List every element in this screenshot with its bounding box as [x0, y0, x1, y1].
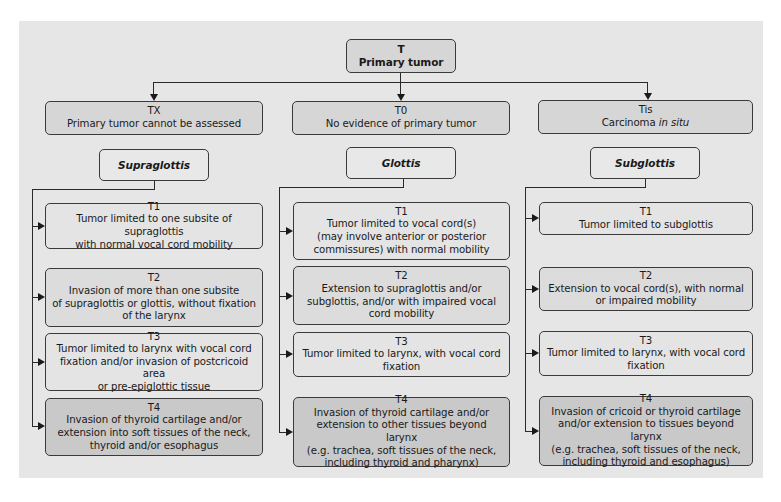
stage-line: (may involve anterior or posterior: [317, 231, 486, 244]
supraglottis-horizontal-line: [32, 189, 155, 190]
glottis-bus-line: [279, 187, 280, 433]
subglottis-t4-branch: [525, 431, 532, 432]
stage-line: (e.g. trachea, soft tissues of the neck,: [307, 445, 496, 458]
arrow-subglottis-t3-icon: [532, 349, 539, 357]
root-stem-line: [400, 73, 401, 94]
supraglottis-t3-box: T3 Tumor limited to larynx with vocal co…: [45, 333, 263, 391]
arrow-glottis-t2-icon: [286, 292, 293, 300]
subglottis-label: Subglottis: [615, 157, 675, 170]
glottis-t2-branch: [279, 296, 286, 297]
stage-line: of the larynx: [122, 310, 186, 323]
stage-code: T4: [395, 394, 408, 407]
stage-line: Extension to vocal cord(s), with normal: [548, 283, 744, 296]
stage-code: T3: [148, 331, 161, 344]
root-code: T: [397, 43, 404, 56]
arrow-glottis-t4-icon: [286, 428, 293, 436]
stage-code: T1: [640, 206, 653, 219]
stage-line: Tumor limited to larynx, with vocal cord: [302, 348, 500, 361]
tx-code: TX: [147, 105, 160, 118]
tx-drop-line: [153, 82, 154, 94]
stage-line: Tumor limited to one subsite of supraglo…: [52, 213, 256, 238]
subglottis-t3-box: T3 Tumor limited to larynx, with vocal c…: [539, 331, 753, 376]
stage-line: fixation: [627, 360, 664, 373]
stage-line: Tumor limited to subglottis: [579, 219, 713, 232]
supraglottis-label: Supraglottis: [118, 159, 190, 172]
supraglottis-t1-box: T1 Tumor limited to one subsite of supra…: [45, 203, 263, 249]
stage-line: including thyroid and esophagus): [562, 456, 729, 469]
arrow-subglottis-t4-icon: [532, 427, 539, 435]
tis-label-italic: in situ: [659, 117, 689, 128]
node-tis: Tis Carcinoma in situ: [538, 100, 753, 134]
subglottis-t2-branch: [525, 289, 532, 290]
arrow-glottis-t1-icon: [286, 227, 293, 235]
stage-line: (e.g. trachea, soft tissues of the neck,: [551, 444, 740, 457]
root-label: Primary tumor: [359, 56, 444, 69]
t0-code: T0: [395, 105, 408, 118]
stage-line: and/or extension to tissues beyond laryn…: [546, 418, 746, 443]
arrow-subglottis-t2-icon: [532, 285, 539, 293]
tis-label: Carcinoma in situ: [602, 117, 689, 130]
glottis-t3-branch: [279, 354, 286, 355]
stage-line: Invasion of cricoid or thyroid cartilage: [551, 406, 740, 419]
glottis-horizontal-line: [279, 187, 404, 188]
stage-line: Extension to supraglottis and/or: [321, 283, 481, 296]
supraglottis-t2-box: T2 Invasion of more than one subsite of …: [45, 268, 263, 327]
stage-code: T3: [640, 335, 653, 348]
region-header-glottis: Glottis: [346, 147, 456, 179]
root-node-primary-tumor: T Primary tumor: [346, 39, 456, 73]
stage-line: or pre-epiglottic tissue: [98, 381, 211, 394]
stage-line: thyroid and/or esophagus: [90, 440, 218, 453]
stage-line: fixation: [383, 361, 420, 374]
stage-line: cord mobility: [369, 308, 434, 321]
glottis-t1-box: T1 Tumor limited to vocal cord(s) (may i…: [293, 202, 510, 260]
region-header-supraglottis: Supraglottis: [99, 149, 209, 181]
glottis-label: Glottis: [382, 157, 421, 170]
subglottis-bus-line: [525, 187, 526, 432]
stage-code: T2: [640, 270, 653, 283]
arrow-to-tx-icon: [150, 94, 158, 101]
subglottis-t1-branch: [525, 218, 532, 219]
stage-line: extension to other tissues beyond larynx: [300, 419, 503, 444]
arrow-supraglottis-t2-icon: [38, 293, 45, 301]
arrow-subglottis-t1-icon: [532, 214, 539, 222]
glottis-t4-box: T4 Invasion of thyroid cartilage and/or …: [293, 397, 510, 467]
region-header-subglottis: Subglottis: [590, 147, 700, 179]
stage-line: Tumor limited to vocal cord(s): [327, 218, 476, 231]
arrow-supraglottis-t3-icon: [38, 358, 45, 366]
stage-line: subglottis, and/or with impaired vocal: [307, 296, 496, 309]
stage-line: Invasion of thyroid cartilage and/or: [314, 407, 489, 420]
stage-line: fixation and/or invasion of postcricoid …: [52, 356, 256, 381]
stage-code: T3: [395, 336, 408, 349]
stage-line: Tumor limited to larynx with vocal cord: [56, 343, 251, 356]
stage-code: T4: [640, 393, 653, 406]
node-tx: TX Primary tumor cannot be assessed: [45, 101, 263, 135]
stage-line: or impaired mobility: [595, 295, 696, 308]
stage-line: Invasion of more than one subsite: [69, 285, 239, 298]
subglottis-t2-box: T2 Extension to vocal cord(s), with norm…: [539, 267, 753, 311]
subglottis-horizontal-line: [525, 187, 646, 188]
stage-line: with normal vocal cord mobility: [75, 239, 233, 252]
arrow-glottis-t3-icon: [286, 350, 293, 358]
glottis-t2-box: T2 Extension to supraglottis and/or subg…: [293, 266, 510, 325]
arrow-to-tis-icon: [644, 93, 652, 100]
subglottis-t4-box: T4 Invasion of cricoid or thyroid cartil…: [539, 396, 753, 466]
stage-line: commissures) with normal mobility: [314, 244, 490, 257]
stage-line: Invasion of thyroid cartilage and/or: [66, 414, 241, 427]
stage-line: Tumor limited to larynx, with vocal cord: [547, 347, 745, 360]
tis-drop-line: [647, 82, 648, 93]
tx-label: Primary tumor cannot be assessed: [67, 118, 241, 131]
stage-code: T1: [148, 201, 161, 214]
node-t0: T0 No evidence of primary tumor: [292, 101, 510, 135]
tis-label-plain: Carcinoma: [602, 117, 659, 128]
glottis-t4-branch: [279, 432, 286, 433]
stage-code: T2: [395, 270, 408, 283]
glottis-t1-branch: [279, 231, 286, 232]
stage-line: of supraglottis or glottis, without fixa…: [52, 298, 256, 311]
stage-code: T1: [395, 206, 408, 219]
arrow-supraglottis-t4-icon: [38, 422, 45, 430]
supraglottis-t4-box: T4 Invasion of thyroid cartilage and/or …: [45, 398, 263, 456]
subglottis-t1-box: T1 Tumor limited to subglottis: [539, 202, 753, 235]
subglottis-t3-branch: [525, 353, 532, 354]
root-horizontal-line: [153, 82, 648, 83]
arrow-to-t0-icon: [397, 94, 405, 101]
